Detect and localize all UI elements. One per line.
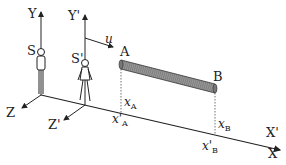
label-xb-prime: x'B: [202, 140, 218, 155]
label-y-prime: Y': [68, 9, 80, 22]
diagram-lines: [0, 0, 286, 165]
label-z-prime: Z': [48, 118, 61, 131]
x-axis: [41, 95, 280, 150]
label-a: A: [120, 45, 129, 58]
label-s: S: [27, 44, 36, 57]
label-xb: xB: [218, 118, 231, 133]
label-x-prime: X': [266, 126, 279, 139]
rod-ab: [119, 60, 217, 93]
label-s-prime: S': [71, 52, 83, 65]
label-z: Z: [6, 106, 15, 119]
label-b: B: [213, 70, 223, 83]
relativity-diagram: Y Y' S S' u A B Z Z' X' X xA x'A xB x'B: [0, 0, 286, 165]
label-x: X: [268, 147, 277, 160]
label-xa-prime: x'A: [112, 113, 128, 128]
z-axis: [22, 95, 41, 108]
z-prime-axis: [64, 105, 85, 120]
label-u: u: [105, 33, 113, 45]
label-y: Y: [28, 7, 37, 20]
label-xa: xA: [124, 96, 137, 111]
